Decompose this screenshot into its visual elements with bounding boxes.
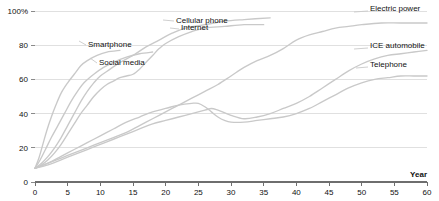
adoption-curve-chart: 020406080100% 051015202530354045505560 S…: [0, 0, 439, 201]
leader-line-cellular-phone: [163, 20, 174, 21]
x-axis-label-35: 35: [259, 188, 268, 197]
series-line-smartphone: [35, 50, 120, 168]
x-axis-label-20: 20: [161, 188, 170, 197]
y-axis-label-100: 100%: [8, 7, 28, 16]
series-labels: SmartphoneSocial mediaCellular phoneInte…: [88, 4, 425, 69]
series-label-social-media: Social media: [99, 58, 145, 67]
series-line-ice-automobile: [35, 50, 427, 168]
leader-line-social-media: [90, 58, 97, 63]
y-axis-ticks: [31, 11, 35, 182]
leader-line-telephone: [356, 67, 368, 68]
x-axis: [35, 182, 427, 186]
series-line-internet: [35, 25, 264, 169]
series-label-electric-power: Electric power: [370, 4, 421, 13]
x-axis-label-5: 5: [65, 188, 70, 197]
x-axis-labels: 051015202530354045505560: [33, 188, 432, 197]
leader-line-ice-automobile: [354, 48, 368, 49]
x-axis-label-50: 50: [357, 188, 366, 197]
y-axis-labels: 020406080100%: [8, 7, 29, 187]
leader-line-smartphone: [79, 41, 86, 45]
x-axis-label-0: 0: [33, 188, 38, 197]
y-axis-label-20: 20: [19, 144, 28, 153]
x-axis-label-15: 15: [129, 188, 138, 197]
y-axis-label-60: 60: [19, 75, 28, 84]
y-axis-label-40: 40: [19, 110, 28, 119]
x-axis-label-55: 55: [390, 188, 399, 197]
series-label-internet: Internet: [181, 23, 209, 32]
gridlines: [35, 11, 427, 148]
x-axis-title: Year: [410, 170, 427, 179]
series-line-telephone: [35, 76, 427, 168]
series-line-cellular-phone: [35, 18, 270, 168]
chart-container: 020406080100% 051015202530354045505560 S…: [0, 0, 439, 201]
x-axis-title: Year: [410, 170, 427, 179]
y-axis-label-80: 80: [19, 41, 28, 50]
x-axis-label-25: 25: [194, 188, 203, 197]
y-axis-label-0: 0: [24, 178, 29, 187]
x-axis-label-60: 60: [423, 188, 432, 197]
x-axis-label-45: 45: [325, 188, 334, 197]
leader-line-internet: [170, 28, 179, 29]
x-axis-label-40: 40: [292, 188, 301, 197]
series-label-telephone: Telephone: [370, 60, 407, 69]
series-label-ice-automobile: ICE automobile: [370, 41, 425, 50]
x-axis-label-30: 30: [227, 188, 236, 197]
x-axis-label-10: 10: [96, 188, 105, 197]
series-label-smartphone: Smartphone: [88, 40, 132, 49]
